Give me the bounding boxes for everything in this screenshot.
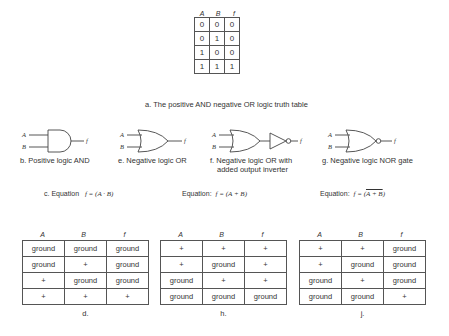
table-cell: + xyxy=(161,241,203,257)
table-header: A B f xyxy=(299,231,426,238)
table-cell: + xyxy=(65,289,107,305)
truth-table-caption: a. The positive AND negative OR logic tr… xyxy=(145,100,308,109)
equation-body: A + B xyxy=(228,190,245,198)
equation-lhs: f = ( xyxy=(85,190,98,198)
equation-body-overlined: A + B xyxy=(366,190,383,198)
or-inverter-diagram: A B f xyxy=(210,128,310,154)
header-f: f xyxy=(226,10,242,17)
table-cell: 0 xyxy=(225,18,240,32)
table-cell: + xyxy=(65,257,107,273)
truth-table: A B f 0 0 0 0 1 0 1 0 0 1 1 1 xyxy=(194,10,242,74)
table-cell: ground xyxy=(107,273,149,289)
table-cell: 1 xyxy=(195,60,210,74)
or-inverter-caption-line1: f. Negative logic OR with xyxy=(210,156,292,165)
table-cell: 1 xyxy=(210,60,225,74)
table-cell: + xyxy=(245,241,287,257)
table-cell: + xyxy=(23,273,65,289)
table-cell: 1 xyxy=(225,60,240,74)
table-cell: ground xyxy=(203,257,245,273)
table-row: ++ground xyxy=(300,241,426,257)
equation-lhs: f = ( xyxy=(353,190,366,198)
table-cell: ground xyxy=(384,257,426,273)
table-cell: 0 xyxy=(225,46,240,60)
table-cell: + xyxy=(384,289,426,305)
table-row: +groundground xyxy=(300,257,426,273)
svg-text:A: A xyxy=(119,131,124,138)
table-row: groundgroundground xyxy=(23,241,149,257)
table-cell: + xyxy=(161,257,203,273)
table-cell: + xyxy=(107,289,149,305)
table-cell: + xyxy=(23,289,65,305)
table-cell: ground xyxy=(342,257,384,273)
table-cell: 1 xyxy=(210,32,225,46)
table-cell: ground xyxy=(23,241,65,257)
or-gate-caption: e. Negative logic OR xyxy=(118,156,187,165)
svg-text:f: f xyxy=(184,137,187,144)
table-cell: ground xyxy=(161,289,203,305)
table-row: 1 0 0 xyxy=(195,46,240,60)
table-cell: + xyxy=(300,257,342,273)
nor-gate-icon: A B f xyxy=(326,128,406,154)
or-inverter-icon: A B f xyxy=(210,128,310,154)
header-f: f xyxy=(104,231,145,238)
svg-text:f: f xyxy=(86,137,89,144)
header-a: A xyxy=(194,10,210,17)
table-cell: + xyxy=(245,273,287,289)
table-cell: ground xyxy=(384,273,426,289)
table-cell: 1 xyxy=(195,46,210,60)
table-label: h. xyxy=(160,309,287,318)
table-row: 0 0 0 xyxy=(195,18,240,32)
table-cell: ground xyxy=(161,273,203,289)
table-row: +++ xyxy=(23,289,149,305)
table-row: ground+ground xyxy=(300,273,426,289)
table-row: ground++ xyxy=(161,273,287,289)
table-cell: ground xyxy=(384,241,426,257)
or-inverter-caption: f. Negative logic OR with added output i… xyxy=(210,156,292,174)
level-table-h: A B f +++ +ground+ ground++ groundground… xyxy=(160,231,287,318)
table-row: groundgroundground xyxy=(161,289,287,305)
table-label: j. xyxy=(299,309,426,318)
truth-table-header: A B f xyxy=(194,10,242,17)
equation-label: Equation: xyxy=(320,190,350,197)
svg-text:B: B xyxy=(212,143,216,150)
equation-label: c. Equation xyxy=(44,190,79,197)
table-cell: ground xyxy=(107,257,149,273)
table-cell: + xyxy=(203,241,245,257)
table-cell: ground xyxy=(245,289,287,305)
header-b: B xyxy=(210,10,226,17)
table-cell: + xyxy=(300,241,342,257)
svg-text:B: B xyxy=(22,143,26,150)
svg-text:B: B xyxy=(328,143,332,150)
header-f: f xyxy=(242,231,283,238)
table-header: A B f xyxy=(22,231,149,238)
and-gate-diagram: A B f xyxy=(20,128,100,154)
svg-text:f: f xyxy=(394,137,397,144)
nor-gate-caption: g. Negative logic NOR gate xyxy=(322,156,413,165)
svg-text:f: f xyxy=(300,137,303,144)
and-gate-icon: A B f xyxy=(20,128,100,154)
equation-rhs: ) xyxy=(383,190,385,198)
equation-lhs: f = ( xyxy=(215,190,228,198)
table-label: d. xyxy=(22,309,149,318)
table-cell: ground xyxy=(107,241,149,257)
svg-text:A: A xyxy=(211,131,216,138)
header-f: f xyxy=(381,231,422,238)
table-row: groundground+ xyxy=(300,289,426,305)
table-cell: + xyxy=(342,241,384,257)
equation-nor: Equation: f = (A + B) xyxy=(320,190,385,198)
nor-gate-diagram: A B f xyxy=(326,128,406,154)
or-inverter-caption-line2: added output inverter xyxy=(210,165,292,174)
table-cell: ground xyxy=(23,257,65,273)
level-table-j: A B f ++ground +groundground ground+grou… xyxy=(299,231,426,318)
equation-rhs: ) xyxy=(245,190,247,198)
level-grid: ++ground +groundground ground+ground gro… xyxy=(299,240,426,305)
table-cell: + xyxy=(245,257,287,273)
and-gate-caption: b. Positive logic AND xyxy=(20,156,90,165)
equation-label: Equation: xyxy=(182,190,212,197)
table-cell: 0 xyxy=(195,18,210,32)
header-a: A xyxy=(22,231,63,238)
table-row: 1 1 1 xyxy=(195,60,240,74)
equation-body: A · B xyxy=(97,190,111,198)
svg-text:B: B xyxy=(120,143,124,150)
table-cell: 0 xyxy=(210,46,225,60)
